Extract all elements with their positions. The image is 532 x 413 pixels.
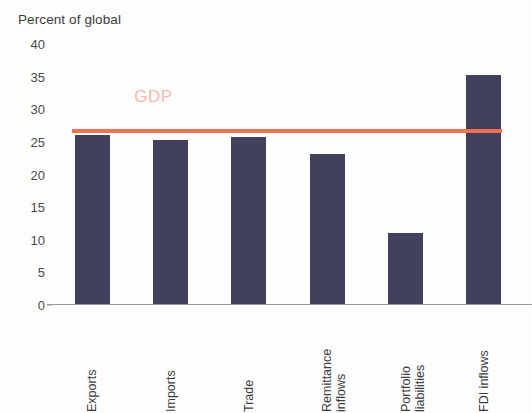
x-axis-category-label-line1: Imports (164, 370, 178, 412)
y-axis-tick-label: 35 (31, 69, 45, 84)
y-axis-tick-label: 40 (31, 37, 45, 52)
x-axis-category-label-line1: Trade (242, 380, 256, 412)
y-axis-tick-label: 15 (31, 200, 45, 215)
gdp-label: GDP (134, 87, 172, 107)
bar (388, 233, 423, 305)
y-axis-tick-label: 5 (38, 265, 45, 280)
bar (153, 140, 188, 305)
bar (466, 75, 501, 305)
x-axis-category-label-line1: Portfolio (399, 366, 413, 412)
y-axis-tick-label: 10 (31, 232, 45, 247)
x-axis-category-label-line1: Remittance (320, 349, 334, 412)
y-axis-tick-label: 20 (31, 167, 45, 182)
plot-area: 4035302520151050 GDP (52, 44, 522, 305)
x-axis-line (47, 304, 532, 306)
bar (231, 137, 266, 305)
x-axis-labels: ExportsImportsTradeRemittanceinflowsPort… (52, 306, 522, 413)
bar (75, 135, 110, 305)
y-axis-tick-label: 30 (31, 102, 45, 117)
y-axis-tick-label: 0 (38, 298, 45, 313)
x-axis-category-label-line2: liabilities (413, 365, 427, 412)
gdp-reference-line (72, 129, 503, 133)
bar (310, 154, 345, 305)
chart-axis-caption: Percent of global (18, 12, 121, 27)
x-axis-category-label-line1: FDI inflows (477, 350, 491, 412)
y-axis-tick-label: 25 (31, 134, 45, 149)
x-axis-category-label-line2: inflows (334, 349, 348, 412)
x-axis-category-label-line1: Exports (85, 370, 99, 412)
